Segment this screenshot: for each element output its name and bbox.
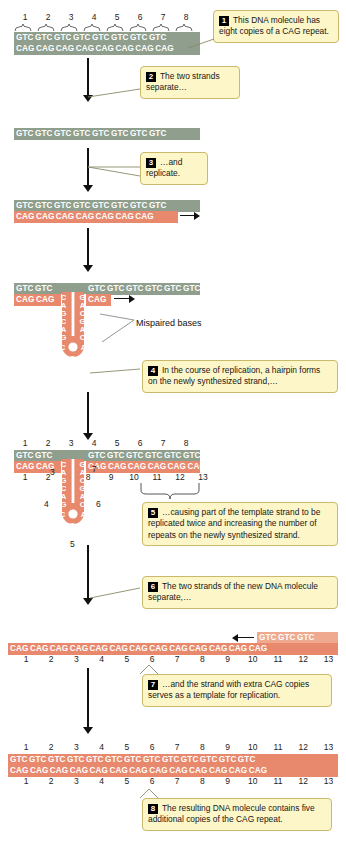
- position-number: 5: [115, 12, 120, 22]
- loop-base: G: [68, 354, 77, 363]
- position-number: 8: [184, 438, 189, 448]
- p5-expanded-bracket: [140, 483, 204, 501]
- position-number: 3: [69, 438, 74, 448]
- codon: CAG: [36, 44, 55, 54]
- position-number: 1: [23, 438, 28, 448]
- codon: GTC: [16, 284, 34, 294]
- codon: CAG: [70, 644, 89, 654]
- step-badge-3: 3: [146, 158, 156, 168]
- codon: CAG: [108, 462, 127, 472]
- step-badge-8: 8: [148, 804, 158, 814]
- position-number: 13: [324, 742, 333, 752]
- codon: CAG: [30, 766, 49, 776]
- p7-bottom-numbers: 12345678910111213: [8, 776, 338, 788]
- codon: CAG: [10, 766, 29, 776]
- codon: GTC: [124, 755, 142, 765]
- codon: CAG: [135, 44, 154, 54]
- codon: CAG: [109, 644, 128, 654]
- codon: CAG: [149, 644, 168, 654]
- codon: CAG: [50, 644, 69, 654]
- codon: GTC: [297, 633, 315, 643]
- p3-top-strand: GTCGTCGTCGTCGTCGTCGTCGTC: [14, 200, 200, 212]
- p1-top-numbers: 12345678: [14, 12, 200, 24]
- position-number: 1: [23, 472, 28, 482]
- hairpin-number: 7: [92, 464, 97, 474]
- codon: CAG: [76, 212, 95, 222]
- codon: GTC: [126, 284, 144, 294]
- codon: GTC: [86, 755, 104, 765]
- codon: CAG: [16, 44, 35, 54]
- position-number: 13: [198, 472, 207, 482]
- position-number: 7: [161, 438, 166, 448]
- codon: CAG: [16, 212, 35, 222]
- position-number: 12: [298, 742, 307, 752]
- leader-step-6: [90, 584, 144, 602]
- leader-step-3: [88, 162, 144, 184]
- codon: GTC: [10, 755, 28, 765]
- codon: GTC: [164, 284, 182, 294]
- callout-step-1: 1This DNA molecule has eight copies of a…: [213, 10, 339, 43]
- position-number: 9: [225, 654, 230, 664]
- p6-primer-strand: GTCGTCGTC: [257, 632, 338, 644]
- codon: CAG: [56, 212, 75, 222]
- codon: GTC: [145, 451, 163, 461]
- codon: GTC: [219, 755, 237, 765]
- codon: CAG: [36, 212, 55, 222]
- position-number: 11: [153, 472, 162, 482]
- position-number: 13: [324, 654, 333, 664]
- position-number: 1: [24, 776, 29, 786]
- codon: CAG: [169, 644, 188, 654]
- p2-top-strand: GTCGTCGTCGTCGTCGTCGTCGTC: [14, 128, 200, 140]
- position-number: 12: [298, 776, 307, 786]
- codon: CAG: [36, 295, 55, 305]
- position-number: 13: [324, 776, 333, 786]
- position-number: 10: [248, 654, 257, 664]
- codon: GTC: [54, 33, 72, 43]
- leader-mispaired: [96, 312, 138, 346]
- loop-base: C: [58, 343, 67, 352]
- codon: CAG: [229, 766, 248, 776]
- codon: CAG: [88, 295, 107, 305]
- codon: GTC: [48, 755, 66, 765]
- position-number: 7: [175, 776, 180, 786]
- position-number: 3: [74, 654, 79, 664]
- position-number: 8: [200, 776, 205, 786]
- codon: GTC: [259, 633, 277, 643]
- position-number: 8: [200, 742, 205, 752]
- arrow-4: [83, 392, 93, 440]
- codon: GTC: [35, 33, 53, 43]
- callout-step-8: 8The resulting DNA molecule contains fiv…: [142, 798, 332, 831]
- codon: GTC: [238, 755, 256, 765]
- position-number: 12: [175, 472, 184, 482]
- position-number: 11: [274, 776, 283, 786]
- codon: CAG: [249, 644, 268, 654]
- p1-top-braces: [14, 24, 204, 32]
- codon: GTC: [29, 755, 47, 765]
- position-number: 3: [74, 776, 79, 786]
- hairpin-number: 4: [44, 499, 49, 509]
- hairpin-number: 3: [50, 467, 55, 477]
- codon: CAG: [249, 766, 268, 776]
- position-number: 4: [99, 776, 104, 786]
- codon: GTC: [73, 33, 91, 43]
- leader-step-2: [88, 86, 144, 100]
- codon: GTC: [16, 129, 34, 139]
- codon: CAG: [70, 766, 89, 776]
- p1-top-strand: GTCGTCGTCGTCGTCGTCGTCGTC: [14, 32, 200, 44]
- codon: GTC: [54, 129, 72, 139]
- mispaired-bases-label: Mispaired bases: [136, 318, 202, 329]
- position-number: 2: [49, 654, 54, 664]
- codon: CAG: [109, 766, 128, 776]
- codon: GTC: [35, 201, 53, 211]
- codon: GTC: [181, 755, 199, 765]
- position-number: 2: [46, 12, 51, 22]
- hairpin-bases-1: CAGCAGGACGACCAG: [58, 292, 90, 370]
- codon: CAG: [16, 295, 35, 305]
- p5-top-numbers: 12345678: [14, 438, 214, 450]
- codon: GTC: [130, 33, 148, 43]
- codon: CAG: [129, 644, 148, 654]
- position-number: 7: [161, 12, 166, 22]
- p3-bottom-strand: CAGCAGCAGCAGCAGCAGCAG: [14, 211, 178, 223]
- codon: CAG: [229, 644, 248, 654]
- codon: GTC: [149, 33, 167, 43]
